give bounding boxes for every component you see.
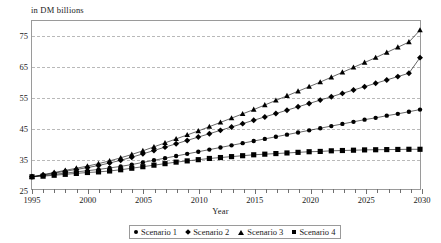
x-axis-tick bbox=[155, 189, 156, 193]
legend-item-scenario-1[interactable]: Scenario 1 bbox=[134, 227, 177, 237]
legend-label: Scenario 2 bbox=[193, 227, 229, 237]
x-axis-tick bbox=[400, 189, 401, 193]
x-axis-tick bbox=[88, 189, 89, 194]
y-axis-tick-label: 35 bbox=[20, 155, 29, 165]
data-point bbox=[29, 174, 34, 179]
data-point bbox=[40, 174, 45, 179]
series-scenario-4 bbox=[29, 147, 422, 180]
data-point bbox=[174, 154, 178, 158]
x-axis-tick bbox=[244, 189, 245, 193]
data-point bbox=[295, 150, 300, 155]
data-point bbox=[340, 148, 345, 153]
circle-marker-icon bbox=[134, 230, 138, 234]
x-axis-tick bbox=[255, 189, 256, 194]
data-point bbox=[339, 90, 345, 96]
data-point bbox=[251, 152, 256, 157]
data-point bbox=[152, 158, 156, 162]
data-point bbox=[307, 149, 312, 154]
data-point bbox=[229, 143, 233, 147]
data-point bbox=[218, 155, 223, 160]
series-scenario-3 bbox=[29, 27, 423, 179]
y-axis-title: in DM billions bbox=[31, 5, 84, 15]
x-axis-tick bbox=[210, 189, 211, 193]
x-axis-tick bbox=[143, 189, 144, 194]
data-point bbox=[373, 147, 378, 152]
x-axis-tick bbox=[266, 189, 267, 193]
data-point bbox=[162, 161, 167, 166]
data-point bbox=[317, 79, 323, 84]
data-point bbox=[262, 152, 267, 157]
x-axis-tick bbox=[199, 189, 200, 194]
data-point bbox=[417, 27, 423, 32]
data-point bbox=[240, 153, 245, 158]
data-point bbox=[217, 127, 223, 133]
x-axis-tick bbox=[344, 189, 345, 193]
data-point bbox=[140, 164, 145, 169]
data-point bbox=[317, 97, 323, 103]
data-point bbox=[163, 156, 167, 160]
data-point bbox=[285, 132, 289, 136]
x-axis-tick-label: 2020 bbox=[302, 195, 319, 205]
data-point bbox=[329, 124, 333, 128]
x-axis-tick bbox=[311, 189, 312, 194]
triangle-marker-icon bbox=[238, 230, 244, 235]
data-point bbox=[295, 88, 301, 93]
data-point bbox=[407, 110, 411, 114]
legend-label: Scenario 4 bbox=[299, 227, 335, 237]
y-axis-tick-label: 55 bbox=[20, 93, 29, 103]
legend-item-scenario-4[interactable]: Scenario 4 bbox=[292, 227, 335, 237]
data-point bbox=[251, 107, 257, 112]
x-axis-tick bbox=[132, 189, 133, 193]
x-axis-tick bbox=[54, 189, 55, 193]
data-point bbox=[340, 122, 344, 126]
data-point bbox=[229, 154, 234, 159]
x-axis-tick bbox=[32, 189, 33, 194]
data-point bbox=[351, 64, 357, 69]
x-axis-tick bbox=[121, 189, 122, 193]
data-point bbox=[395, 44, 401, 49]
x-axis-tick bbox=[288, 189, 289, 193]
legend-item-scenario-3[interactable]: Scenario 3 bbox=[238, 227, 283, 237]
y-axis-tick-label: 45 bbox=[20, 124, 29, 134]
data-point bbox=[173, 141, 179, 147]
x-axis-tick-label: 1995 bbox=[24, 195, 41, 205]
data-point bbox=[362, 147, 367, 152]
data-point bbox=[229, 124, 235, 130]
plot-area: 253545556575 199520002005201020152020202… bbox=[31, 20, 421, 190]
square-marker-icon bbox=[292, 230, 296, 234]
x-axis-tick bbox=[355, 189, 356, 193]
x-axis-tick bbox=[422, 189, 423, 194]
x-axis-tick bbox=[43, 189, 44, 193]
x-axis-tick bbox=[65, 189, 66, 193]
data-point bbox=[129, 166, 134, 171]
data-point bbox=[307, 128, 311, 132]
x-axis-tick-label: 2000 bbox=[79, 195, 96, 205]
data-point bbox=[284, 107, 290, 113]
data-point bbox=[118, 167, 123, 172]
data-point bbox=[240, 111, 246, 116]
x-axis-tick bbox=[77, 189, 78, 193]
data-point bbox=[206, 131, 212, 137]
data-point bbox=[418, 107, 422, 111]
data-point bbox=[218, 119, 224, 124]
data-point bbox=[96, 169, 101, 174]
data-point bbox=[185, 158, 190, 163]
x-axis-tick bbox=[411, 189, 412, 193]
x-axis-tick bbox=[322, 189, 323, 193]
data-point bbox=[74, 171, 79, 176]
data-point bbox=[395, 147, 400, 152]
x-axis-tick bbox=[299, 189, 300, 193]
data-point bbox=[240, 141, 244, 145]
data-point bbox=[406, 147, 411, 152]
data-point bbox=[252, 139, 256, 143]
data-point bbox=[329, 74, 335, 79]
x-axis-tick bbox=[188, 189, 189, 193]
data-point bbox=[362, 117, 366, 121]
x-axis-tick bbox=[99, 189, 100, 193]
data-point bbox=[263, 137, 267, 141]
legend-item-scenario-2[interactable]: Scenario 2 bbox=[186, 227, 229, 237]
data-point bbox=[207, 124, 213, 129]
data-point bbox=[362, 84, 368, 90]
data-point bbox=[295, 104, 301, 110]
y-axis-tick-label: 75 bbox=[20, 31, 29, 41]
